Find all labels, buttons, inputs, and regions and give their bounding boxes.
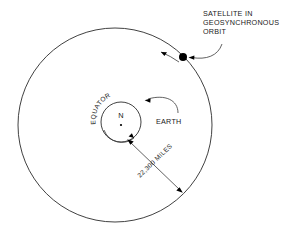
- satellite-label-line3: ORBIT: [203, 27, 227, 36]
- satellite-leader-arrowhead: [189, 55, 195, 59]
- equator-label: EQUATOR: [89, 91, 111, 125]
- earth-rotation-arrowhead: [129, 133, 134, 138]
- geosynchronous-orbit-diagram: SATELLITE IN GEOSYNCHRONOUS ORBIT EARTH …: [0, 0, 302, 234]
- earth-leader-line: [148, 97, 178, 113]
- earth-leader-arrowhead: [145, 98, 151, 102]
- distance-arrow-line: [130, 142, 180, 190]
- earth-label: EARTH: [156, 117, 181, 126]
- diagram-canvas: SATELLITE IN GEOSYNCHRONOUS ORBIT EARTH …: [0, 0, 302, 234]
- satellite-leader-line: [192, 44, 222, 58]
- satellite-label-line1: SATELLITE IN: [203, 9, 253, 18]
- distance-label: 22,300 MILES: [136, 142, 174, 179]
- north-pole-label: N: [118, 111, 123, 120]
- satellite-dot: [179, 53, 187, 61]
- satellite-label-line2: GEOSYNCHRONOUS: [203, 18, 279, 27]
- distance-arrowhead-bottom: [176, 187, 183, 193]
- earth-center-dot: [120, 124, 122, 126]
